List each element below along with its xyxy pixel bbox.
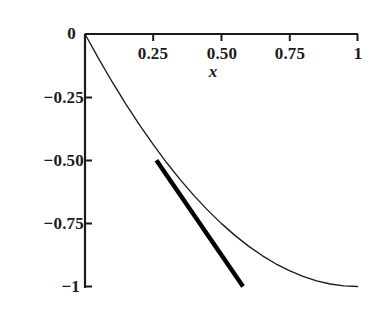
data-curve [85,34,358,287]
y-tick-label-2: −0.50 [44,151,84,171]
chart-figure: 0.25 0.50 0.75 1 x 0 −0.25 −0.50 −0.75 −… [0,0,380,316]
x-tick-label-2: 0.50 [207,44,238,64]
y-tick-label-3: −0.75 [44,214,84,234]
tangent-line [156,160,243,286]
y-tick-label-1: −0.25 [44,88,84,108]
y-tick-label-4: −1 [61,277,80,297]
x-tick-label-3: 0.75 [275,44,306,64]
x-tick-label-1: 0.25 [138,44,169,64]
y-tick-label-0: 0 [67,24,76,44]
x-axis-title: x [209,62,218,82]
x-tick-label-4: 1 [354,44,363,64]
